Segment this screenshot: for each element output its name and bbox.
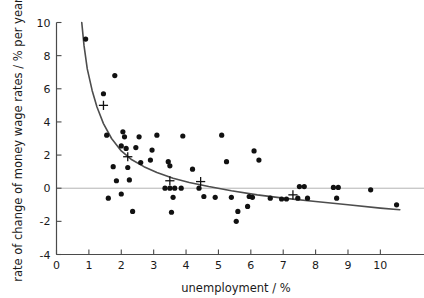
data-point <box>154 133 159 138</box>
data-point <box>130 209 135 214</box>
data-point <box>251 148 256 153</box>
y-tick-label: 0 <box>44 182 51 195</box>
data-point <box>334 196 339 201</box>
data-point <box>305 196 310 201</box>
data-point <box>169 210 174 215</box>
data-point <box>190 167 195 172</box>
y-tick-label: -2 <box>40 215 51 228</box>
data-point <box>235 209 240 214</box>
data-point <box>120 129 125 134</box>
data-point <box>284 196 289 201</box>
x-tick-label: 6 <box>247 259 254 272</box>
data-point <box>196 186 201 191</box>
y-tick-label: 6 <box>44 83 51 96</box>
data-point <box>179 186 184 191</box>
data-point <box>111 164 116 169</box>
data-point <box>138 160 143 165</box>
data-point <box>250 195 255 200</box>
data-point <box>331 185 336 190</box>
phillips-curve-figure: 012345678910-4-20246810 unemployment / %… <box>0 0 424 298</box>
data-point <box>297 184 302 189</box>
data-point <box>368 187 373 192</box>
data-point <box>104 133 109 138</box>
data-point <box>180 133 185 138</box>
data-point <box>149 148 154 153</box>
y-tick-label: 2 <box>44 149 51 162</box>
x-tick-label: 10 <box>373 259 387 272</box>
x-tick-label: 7 <box>280 259 287 272</box>
data-point <box>245 204 250 209</box>
data-point <box>229 195 234 200</box>
x-tick-label: 1 <box>85 259 92 272</box>
data-point <box>162 186 167 191</box>
data-point <box>219 133 224 138</box>
data-point <box>136 134 141 139</box>
data-point <box>172 186 177 191</box>
data-point <box>119 191 124 196</box>
data-point <box>127 177 132 182</box>
x-tick-label: 2 <box>118 259 125 272</box>
data-point <box>295 196 300 201</box>
data-point <box>148 157 153 162</box>
y-tick-label: -4 <box>40 249 51 262</box>
data-point <box>114 178 119 183</box>
y-axis-title: rate of change of money wage rates / % p… <box>11 0 25 282</box>
x-tick-label: 8 <box>312 259 319 272</box>
scatter-plot-svg: 012345678910-4-20246810 unemployment / %… <box>0 0 424 298</box>
x-tick-label: 0 <box>53 259 60 272</box>
y-tick-label: 4 <box>44 116 51 129</box>
data-point <box>394 202 399 207</box>
data-point <box>302 184 307 189</box>
data-point <box>106 196 111 201</box>
data-point <box>125 165 130 170</box>
data-point <box>167 186 172 191</box>
x-tick-label: 5 <box>215 259 222 272</box>
data-point <box>170 195 175 200</box>
data-point <box>124 146 129 151</box>
data-point <box>268 196 273 201</box>
data-point <box>336 185 341 190</box>
data-point <box>201 194 206 199</box>
x-axis-title: unemployment / % <box>181 281 290 295</box>
data-point <box>167 163 172 168</box>
x-tick-label: 9 <box>344 259 351 272</box>
data-point <box>256 157 261 162</box>
data-point <box>279 196 284 201</box>
plot-background <box>0 0 424 298</box>
x-tick-label: 3 <box>150 259 157 272</box>
data-point <box>234 219 239 224</box>
data-point <box>224 159 229 164</box>
data-point <box>83 36 88 41</box>
data-point <box>101 91 106 96</box>
data-point <box>112 73 117 78</box>
data-point <box>213 195 218 200</box>
data-point <box>119 143 124 148</box>
data-point <box>133 145 138 150</box>
y-tick-label: 8 <box>44 50 51 63</box>
data-point <box>122 134 127 139</box>
x-tick-label: 4 <box>183 259 190 272</box>
y-tick-label: 10 <box>37 17 51 30</box>
